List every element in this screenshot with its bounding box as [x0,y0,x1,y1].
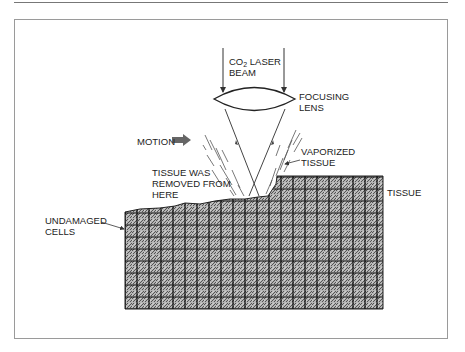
undamaged-label-line2: CELLS [45,226,75,237]
removed-label-line3: HERE [152,189,178,200]
removed-label: TISSUE WAS [152,167,210,178]
tissue-label: TISSUE [387,187,421,198]
vaporized-label: VAPORIZED [301,146,355,157]
lens-label-line2: LENS [299,102,324,113]
removed-label-line2: REMOVED FROM [152,178,231,189]
focusing-lens-icon [214,88,295,111]
beam-label-line2: BEAM [229,67,256,78]
undamaged-label: UNDAMAGED [45,215,107,226]
laser-ablation-diagram: CO2 LASER BEAM FOCUSING LENS MOTION VAPO… [0,0,465,352]
vaporized-label-line2: TISSUE [301,157,335,168]
lens-label: FOCUSING [299,91,349,102]
motion-label: MOTION [137,136,175,147]
vaporized-leader-line [285,160,300,164]
